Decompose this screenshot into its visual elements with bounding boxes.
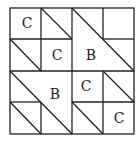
- block-bottom-left: [10, 71, 72, 134]
- label-c-r2c2: C: [81, 78, 92, 94]
- label-c-r1c1: C: [52, 47, 63, 63]
- label-c-r0c0: C: [22, 15, 33, 31]
- tiling-diagram: C C B B C C: [0, 0, 140, 141]
- label-b-r1c2: B: [86, 47, 96, 63]
- label-b-r2c1: B: [50, 86, 60, 102]
- label-c-r3c3: C: [114, 110, 125, 126]
- block-top-right: [72, 8, 134, 71]
